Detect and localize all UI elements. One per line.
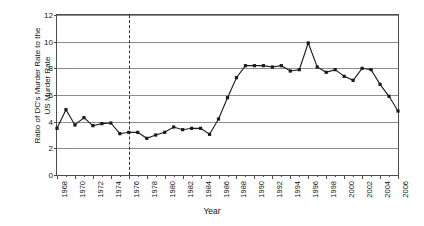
x-tick-mark	[362, 175, 363, 179]
x-tick-mark	[219, 175, 220, 179]
y-tick-label: 6	[49, 91, 53, 100]
data-point-marker	[64, 108, 67, 111]
x-tick-mark	[263, 175, 264, 177]
x-tick-mark	[281, 175, 282, 177]
x-tick-label: 1996	[311, 181, 320, 198]
x-tick-mark	[57, 175, 58, 179]
data-point-marker	[82, 116, 85, 119]
data-point-marker	[307, 41, 310, 44]
x-tick-mark	[129, 175, 130, 179]
x-tick-mark	[371, 175, 372, 177]
data-point-marker	[298, 68, 301, 71]
y-tick-label: 2	[49, 144, 53, 153]
x-tick-label: 1968	[60, 181, 69, 198]
x-tick-label: 1984	[204, 181, 213, 198]
x-tick-label: 1972	[96, 181, 105, 198]
data-point-marker	[172, 125, 175, 128]
data-point-marker	[109, 121, 112, 124]
x-tick-label: 1998	[329, 181, 338, 198]
x-tick-label: 1992	[275, 181, 284, 198]
x-tick-mark	[353, 175, 354, 177]
y-tick-label: 0	[49, 171, 53, 180]
x-tick-mark	[147, 175, 148, 179]
x-tick-label: 1994	[293, 181, 302, 198]
data-point-marker	[136, 131, 139, 134]
x-axis-label: Year	[0, 206, 424, 216]
data-point-marker	[289, 69, 292, 72]
data-point-marker	[361, 67, 364, 70]
x-tick-mark	[75, 175, 76, 179]
data-point-marker	[127, 131, 130, 134]
x-tick-label: 1976	[132, 181, 141, 198]
x-tick-mark	[299, 175, 300, 177]
data-point-marker	[190, 127, 193, 130]
data-point-marker	[154, 133, 157, 136]
x-tick-mark	[344, 175, 345, 179]
x-tick-mark	[201, 175, 202, 179]
x-tick-label: 1990	[257, 181, 266, 198]
x-tick-label: 2002	[365, 181, 374, 198]
data-point-marker	[352, 79, 355, 82]
x-tick-label: 1970	[78, 181, 87, 198]
data-point-marker	[271, 65, 274, 68]
y-axis-label: Ratio of DC's Murder Rate to the US Murd…	[33, 11, 52, 161]
x-tick-mark	[245, 175, 246, 177]
data-point-marker	[208, 133, 211, 136]
data-point-marker	[378, 83, 381, 86]
x-tick-mark	[93, 175, 94, 179]
data-point-marker	[118, 132, 121, 135]
data-point-marker	[396, 109, 399, 112]
x-tick-label: 1988	[239, 181, 248, 198]
x-tick-mark	[156, 175, 157, 177]
data-series-layer	[57, 15, 398, 175]
x-tick-label: 1974	[114, 181, 123, 198]
x-tick-label: 2000	[347, 181, 356, 198]
x-tick-mark	[183, 175, 184, 179]
chart-container: Ratio of DC's Murder Rate to the US Murd…	[0, 0, 424, 226]
data-point-marker	[217, 117, 220, 120]
x-tick-mark	[326, 175, 327, 179]
data-point-marker	[73, 123, 76, 126]
x-tick-mark	[272, 175, 273, 179]
data-point-marker	[199, 127, 202, 130]
x-tick-label: 1986	[222, 181, 231, 198]
y-tick-label: 12	[44, 11, 53, 20]
x-tick-mark	[165, 175, 166, 179]
x-tick-mark	[389, 175, 390, 177]
data-point-marker	[91, 124, 94, 127]
x-tick-label: 2004	[383, 181, 392, 198]
x-tick-label: 1980	[168, 181, 177, 198]
data-point-marker	[262, 64, 265, 67]
data-point-marker	[100, 122, 103, 125]
y-tick-label: 4	[49, 117, 53, 126]
x-tick-mark	[210, 175, 211, 177]
data-point-marker	[325, 71, 328, 74]
data-point-marker	[181, 128, 184, 131]
data-point-marker	[145, 137, 148, 140]
x-tick-label: 1982	[186, 181, 195, 198]
x-tick-mark	[111, 175, 112, 179]
x-tick-mark	[254, 175, 255, 179]
x-tick-mark	[335, 175, 336, 177]
x-tick-mark	[308, 175, 309, 179]
x-tick-mark	[398, 175, 399, 179]
data-point-marker	[387, 95, 390, 98]
x-tick-mark	[236, 175, 237, 179]
data-point-marker	[253, 64, 256, 67]
data-point-marker	[55, 127, 58, 130]
data-point-marker	[334, 68, 337, 71]
data-point-marker	[235, 76, 238, 79]
data-point-marker	[226, 96, 229, 99]
data-point-marker	[163, 131, 166, 134]
x-tick-mark	[84, 175, 85, 177]
x-tick-mark	[102, 175, 103, 177]
x-tick-mark	[174, 175, 175, 177]
data-point-marker	[343, 75, 346, 78]
y-tick-label: 10	[44, 37, 53, 46]
x-tick-label: 2006	[401, 181, 410, 198]
x-tick-mark	[120, 175, 121, 177]
x-tick-label: 1978	[150, 181, 159, 198]
x-tick-mark	[66, 175, 67, 177]
x-tick-mark	[290, 175, 291, 179]
series-line	[57, 43, 398, 138]
